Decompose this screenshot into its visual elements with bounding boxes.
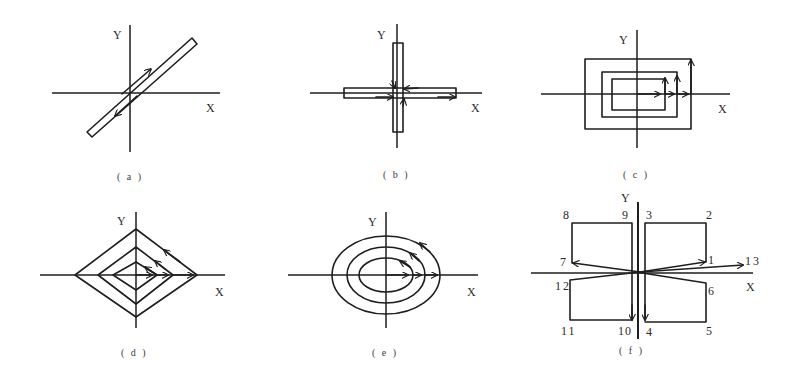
panel-e: Y X ( e ) xyxy=(288,212,478,359)
y-axis-label: Y xyxy=(117,214,126,228)
y-axis-label: Y xyxy=(368,215,377,229)
path-10-11-12 xyxy=(570,272,640,320)
panel-b: Y X ( b ) xyxy=(310,24,482,181)
caption-b: ( b ) xyxy=(383,169,410,181)
point-label-5: 5 xyxy=(706,324,712,338)
arrow-ccw-icon xyxy=(410,253,419,261)
x-axis-label: X xyxy=(718,102,727,116)
arrow-ccw-icon xyxy=(400,261,410,267)
point-label-7: 7 xyxy=(560,255,566,269)
x-axis-label: X xyxy=(746,280,755,294)
path-7-8-9 xyxy=(572,223,632,320)
x-axis-label: X xyxy=(467,285,476,299)
arrow-up-icon xyxy=(403,99,404,106)
path-to-7-arrow xyxy=(573,263,640,272)
point-label-9: 9 xyxy=(622,208,628,222)
point-label-4: 4 xyxy=(646,325,652,339)
x-axis-label: X xyxy=(471,101,480,115)
point-label-2: 2 xyxy=(706,208,712,222)
point-label-1: 1 xyxy=(708,253,714,267)
panel-a: Y X ( a ) xyxy=(52,25,220,183)
caption-f: ( f ) xyxy=(619,345,644,357)
panel-d: Y X ( d ) xyxy=(40,212,225,359)
arrow-left-icon xyxy=(404,88,418,89)
path-to-13-arrow xyxy=(640,265,743,272)
point-label-13: 13 xyxy=(745,254,761,268)
point-label-12: 12 xyxy=(555,279,571,293)
path-4-5-6 xyxy=(636,272,706,322)
caption-c: ( c ) xyxy=(623,169,649,181)
panel-c: Y X ( c ) xyxy=(541,30,730,181)
arrow-down-left-icon xyxy=(115,96,137,116)
diagonal-bar xyxy=(87,38,197,137)
inner-diamond xyxy=(113,262,157,290)
point-label-8: 8 xyxy=(563,208,569,222)
arrow-up-left-icon xyxy=(164,250,180,262)
y-axis-label: Y xyxy=(377,28,386,42)
arrow-ccw-icon xyxy=(420,243,430,252)
caption-d: ( d ) xyxy=(121,347,148,359)
point-label-6: 6 xyxy=(708,284,714,298)
scan-pattern-figure: Y X ( a ) Y X ( b ) Y X ( c ) xyxy=(0,0,794,383)
caption-a: ( a ) xyxy=(117,171,143,183)
y-axis-label: Y xyxy=(619,33,628,47)
point-label-10: 10 xyxy=(618,324,632,338)
point-label-3: 3 xyxy=(646,208,652,222)
arrow-up-right-icon xyxy=(122,69,151,94)
y-axis-label: Y xyxy=(113,28,122,42)
point-label-11: 11 xyxy=(561,324,577,338)
caption-e: ( e ) xyxy=(372,347,398,359)
panel-f: Y X 1 2 3 4 5 6 7 8 9 10 11 12 13 ( f ) xyxy=(531,191,761,357)
y-axis-label: Y xyxy=(621,191,630,205)
x-axis-label: X xyxy=(206,101,215,115)
x-axis-label: X xyxy=(215,285,224,299)
arrow-up-left-icon xyxy=(145,267,157,275)
arrow-up-left-icon xyxy=(155,261,165,269)
